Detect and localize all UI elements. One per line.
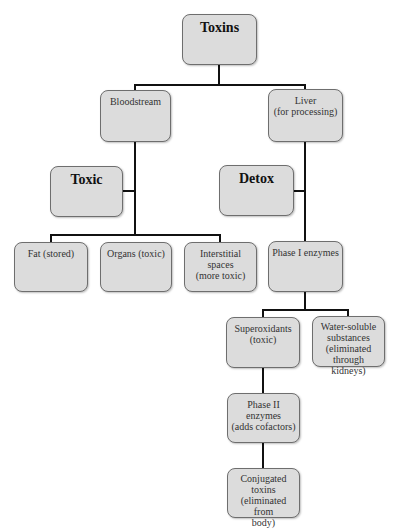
connector-phase2-down — [262, 443, 264, 468]
node-superoxidants-label-2: (toxic) — [227, 334, 299, 345]
connector-phase1-horizontal — [262, 309, 349, 311]
node-phase2-label-1: Phase II — [228, 399, 299, 410]
node-toxic: Toxic — [50, 166, 123, 217]
connector-left-horizontal — [50, 234, 221, 236]
node-fat: Fat (stored) — [14, 242, 88, 292]
connector-detox-branch — [294, 190, 305, 192]
node-conjugated-label-2: toxins — [228, 484, 299, 495]
node-liver-label-1: Liver — [269, 95, 342, 106]
node-water-soluble-label-1: Water-soluble — [313, 321, 384, 332]
node-organs: Organs (toxic) — [100, 242, 172, 292]
node-detox-label: Detox — [220, 171, 293, 187]
node-detox: Detox — [219, 165, 294, 216]
connector-toxins-down — [218, 64, 220, 86]
node-superoxidants: Superoxidants (toxic) — [226, 317, 300, 368]
connector-bloodstream-down — [134, 142, 136, 236]
node-water-soluble-label-4: through kidneys) — [313, 354, 384, 376]
node-toxins-label: Toxins — [183, 20, 256, 36]
node-phase1: Phase I enzymes — [268, 241, 343, 292]
node-liver-label-2: (for processing) — [269, 106, 342, 117]
node-toxic-label: Toxic — [51, 172, 122, 188]
node-bloodstream: Bloodstream — [100, 90, 171, 142]
node-interstitial: Interstitial spaces (more toxic) — [184, 242, 257, 292]
connector-top-horizontal — [134, 84, 306, 86]
node-phase2-label-3: (adds cofactors) — [228, 421, 299, 432]
node-conjugated-label-1: Conjugated — [228, 473, 299, 484]
node-water-soluble-label-2: substances — [313, 332, 384, 343]
node-water-soluble-label-3: (eliminated — [313, 343, 384, 354]
node-toxins: Toxins — [182, 14, 257, 65]
node-phase2: Phase II enzymes (adds cofactors) — [227, 393, 300, 443]
connector-to-fat — [50, 234, 52, 242]
connector-superoxidants-down — [262, 368, 264, 393]
node-conjugated-label-3: (eliminated from — [228, 495, 299, 517]
node-phase2-label-2: enzymes — [228, 410, 299, 421]
node-water-soluble: Water-soluble substances (eliminated thr… — [312, 316, 385, 367]
node-superoxidants-label-1: Superoxidants — [227, 323, 299, 334]
node-liver: Liver (for processing) — [268, 89, 343, 142]
connector-to-superoxidants — [262, 309, 264, 317]
node-conjugated: Conjugated toxins (eliminated from body) — [227, 468, 300, 518]
node-organs-label: Organs (toxic) — [101, 248, 171, 259]
node-conjugated-label-4: body) — [228, 517, 299, 528]
node-fat-label: Fat (stored) — [15, 248, 87, 259]
node-bloodstream-label: Bloodstream — [101, 96, 170, 107]
connector-toxic-branch — [123, 190, 135, 192]
connector-to-interstitial — [219, 234, 221, 242]
node-phase1-label: Phase I enzymes — [269, 247, 342, 258]
node-interstitial-label-1: Interstitial spaces — [185, 248, 256, 270]
node-interstitial-label-2: (more toxic) — [185, 270, 256, 281]
